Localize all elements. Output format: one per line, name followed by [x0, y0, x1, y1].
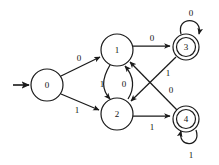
- state-node-4[interactable]: 4: [173, 106, 199, 132]
- edge-label-1-to-2: 1: [100, 79, 105, 89]
- edge-2-to-1: 0: [122, 66, 133, 99]
- automaton-canvas: 0 1 1 0 0 1 1: [0, 0, 219, 165]
- state-label-2: 2: [115, 109, 120, 119]
- edge-label-0-to-1: 0: [77, 53, 82, 63]
- state-node-2[interactable]: 2: [101, 98, 133, 130]
- edge-label-1-to-3: 0: [150, 33, 155, 43]
- edge-0-to-2: 1: [61, 94, 99, 115]
- state-label-4: 4: [184, 114, 189, 124]
- edge-label-0-to-2: 1: [75, 105, 80, 115]
- state-label-0: 0: [45, 80, 50, 90]
- edge-label-2-to-4: 1: [150, 122, 155, 132]
- automaton-diagram: 0 1 1 0 0 1 1: [0, 0, 219, 165]
- state-node-3[interactable]: 3: [173, 34, 199, 60]
- state-node-1[interactable]: 1: [101, 34, 133, 66]
- edge-label-3-to-2: 1: [166, 68, 171, 78]
- edge-label-4-to-1: 0: [169, 85, 174, 95]
- edge-label-3-to-3: 0: [189, 8, 194, 18]
- edge-label-2-to-1: 0: [122, 79, 127, 89]
- self-loop-4: 1: [181, 130, 197, 160]
- edge-1-to-2: 1: [100, 65, 110, 99]
- state-node-0[interactable]: 0: [31, 69, 63, 101]
- edge-0-to-1: 0: [61, 53, 100, 76]
- state-label-3: 3: [184, 42, 189, 52]
- edge-label-4-to-4: 1: [189, 150, 194, 160]
- state-label-1: 1: [115, 45, 120, 55]
- self-loop-3: 0: [180, 8, 199, 34]
- edge-2-to-4: 1: [133, 116, 170, 132]
- edge-1-to-3: 0: [133, 33, 170, 46]
